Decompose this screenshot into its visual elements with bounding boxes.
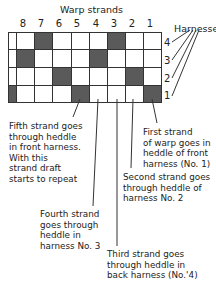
annotation-third-strand: Third strand goes through heddle in back… bbox=[107, 249, 198, 281]
annotation-fourth-strand: Fourth strand goes through heddle in har… bbox=[40, 209, 100, 251]
annotation-second-strand: Second strand goes through heddle of har… bbox=[123, 172, 210, 204]
annotation-fifth-strand: Fifth strand goes through heddle in fron… bbox=[9, 121, 83, 184]
annotation-first-strand: First strand of warp goes in heddle of f… bbox=[143, 127, 211, 169]
